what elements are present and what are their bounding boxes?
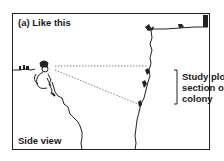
observer-figure [34,61,55,96]
annotation-line-2: section of [182,82,224,93]
annotation-line-1: Study plot/ [182,71,224,82]
ledge-vegetation [19,65,29,70]
panel-title: (a) Like this [18,17,71,28]
study-plot-annotation: Study plot/ section of colony [182,71,224,104]
study-plot-bracket [174,70,177,104]
sight-lines [55,66,148,104]
annotation-line-3: colony [182,93,224,104]
view-label: Side view [18,135,61,146]
